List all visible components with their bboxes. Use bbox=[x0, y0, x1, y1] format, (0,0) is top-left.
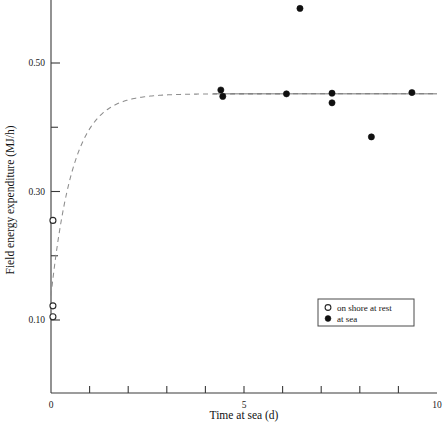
y-axis-ticks bbox=[51, 63, 60, 320]
x-tick-label-0: 0 bbox=[49, 400, 54, 410]
legend-marker-filled-circle bbox=[325, 316, 331, 322]
data-point-on-shore-at-rest-2 bbox=[50, 314, 56, 320]
data-point-at-sea-1 bbox=[220, 93, 226, 99]
x-axis-title: Time at sea (d) bbox=[210, 409, 279, 422]
y-tick-label-0.1: 0.10 bbox=[28, 315, 45, 325]
data-point-on-shore-at-rest-1 bbox=[50, 303, 56, 309]
axes bbox=[51, 0, 437, 393]
y-tick-label-0.3: 0.30 bbox=[28, 187, 45, 197]
data-point-at-sea-5 bbox=[329, 100, 335, 106]
data-point-at-sea-7 bbox=[409, 89, 415, 95]
y-tick-label-0.5: 0.50 bbox=[28, 58, 45, 68]
chart-figure: 0.100.300.50 0510 Time at sea (d) Field … bbox=[0, 0, 443, 432]
data-point-at-sea-3 bbox=[297, 5, 303, 11]
series-at-sea bbox=[218, 5, 415, 140]
data-point-on-shore-at-rest-0 bbox=[50, 217, 56, 223]
legend-label-at-sea: at sea bbox=[337, 314, 357, 324]
scatter-plot: 0.100.300.50 0510 Time at sea (d) Field … bbox=[0, 0, 443, 432]
legend-label-on-shore-at-rest: on shore at rest bbox=[337, 303, 392, 313]
legend-marker-open-circle bbox=[325, 305, 331, 311]
x-axis-ticks bbox=[90, 386, 399, 393]
data-point-at-sea-4 bbox=[329, 90, 335, 96]
data-point-at-sea-6 bbox=[368, 134, 374, 140]
fit-curve-dashed bbox=[51, 94, 437, 296]
x-tick-label-10: 10 bbox=[432, 400, 442, 410]
y-axis-title: Field energy expenditure (MJ/h) bbox=[4, 125, 17, 274]
data-point-at-sea-2 bbox=[283, 91, 289, 97]
y-axis-tick-labels: 0.100.300.50 bbox=[28, 58, 45, 325]
legend: on shore at rest at sea bbox=[318, 299, 414, 326]
data-point-at-sea-0 bbox=[218, 87, 224, 93]
